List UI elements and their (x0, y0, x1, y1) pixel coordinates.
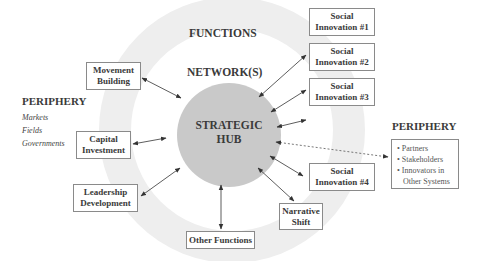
periphery-left-title: PERIPHERY (22, 95, 86, 107)
box-other-functions: Other Functions (186, 231, 255, 249)
box-social-innovation-2: SocialInnovation #2 (309, 43, 375, 71)
periphery-item-stakeholders: • Stakeholders (397, 154, 458, 165)
periphery-item-governments: Governments (22, 137, 65, 150)
periphery-item-innovators: • Innovators in (397, 165, 458, 176)
box-leadership-development: LeadershipDevelopment (73, 184, 138, 212)
networks-label: NETWORK(S) (187, 66, 262, 78)
hub-line-1: STRATEGIC (196, 119, 263, 131)
arrow-social-innovation-4 (270, 156, 303, 176)
arrow-movement-building (142, 78, 181, 98)
arrow-social-innovation-1 (259, 55, 306, 97)
periphery-item-markets: Markets (22, 111, 65, 124)
box-social-innovation-3: SocialInnovation #3 (309, 78, 375, 106)
periphery-right-box: • Partners • Stakeholders • Innovators i… (391, 139, 459, 189)
functions-label: FUNCTIONS (189, 27, 257, 39)
hub-line-2: HUB (217, 133, 242, 145)
strategic-hub-label: STRATEGIC HUB (189, 118, 269, 146)
arrow-narrative-shift (258, 168, 294, 201)
box-social-innovation-4: SocialInnovation #4 (309, 163, 375, 191)
periphery-item-partners: • Partners (397, 143, 458, 154)
box-narrative-shift: NarrativeShift (279, 203, 323, 230)
box-social-innovation-1: SocialInnovation #1 (309, 8, 375, 36)
arrow-leadership-development (141, 168, 180, 196)
arrow-social-innovation-2 (271, 90, 306, 112)
arrow-social-innovation-3 (277, 120, 306, 127)
periphery-left-list: Markets Fields Governments (22, 111, 65, 150)
periphery-item-other-systems: Other Systems (397, 176, 458, 187)
box-capital-investment: CapitalInvestment (76, 131, 131, 159)
box-movement-building: MovementBuilding (86, 62, 141, 90)
arrow-capital-investment (133, 138, 166, 144)
periphery-item-fields: Fields (22, 124, 65, 137)
periphery-right-title: PERIPHERY (392, 120, 456, 132)
